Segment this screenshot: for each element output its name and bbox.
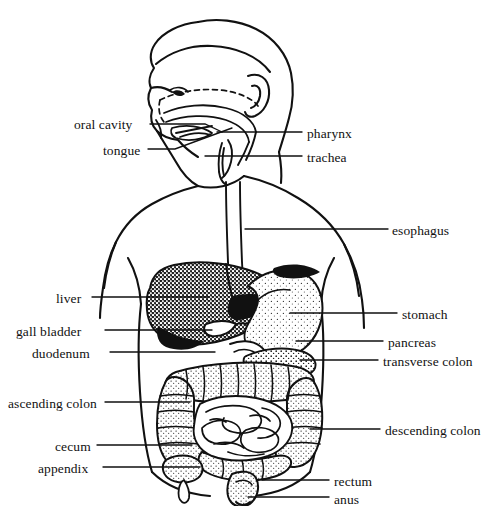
label-duodenum: duodenum (32, 347, 90, 361)
label-trachea: trachea (307, 151, 347, 165)
digestive-system-figure: oral cavitytonguelivergall bladderduoden… (0, 0, 488, 506)
label-ascending-colon: ascending colon (8, 397, 97, 411)
head-profile (148, 20, 292, 187)
pharynx-larynx-trachea (219, 132, 256, 184)
label-pharynx: pharynx (307, 127, 352, 141)
label-pancreas: pancreas (388, 336, 436, 350)
label-anus: anus (334, 493, 359, 506)
label-esophagus: esophagus (392, 224, 449, 238)
label-cecum: cecum (55, 440, 91, 454)
label-stomach: stomach (402, 308, 448, 322)
label-tongue: tongue (103, 144, 140, 158)
appendix (179, 480, 190, 503)
label-appendix: appendix (38, 462, 88, 476)
cecum (163, 456, 203, 483)
label-gall-bladder: gall bladder (16, 325, 81, 339)
rectum (227, 472, 258, 506)
label-oral-cavity: oral cavity (74, 118, 132, 132)
label-rectum: rectum (334, 475, 372, 489)
label-transverse-colon: transverse colon (383, 355, 473, 369)
label-descending-colon: descending colon (385, 424, 481, 438)
label-liver: liver (56, 292, 81, 306)
